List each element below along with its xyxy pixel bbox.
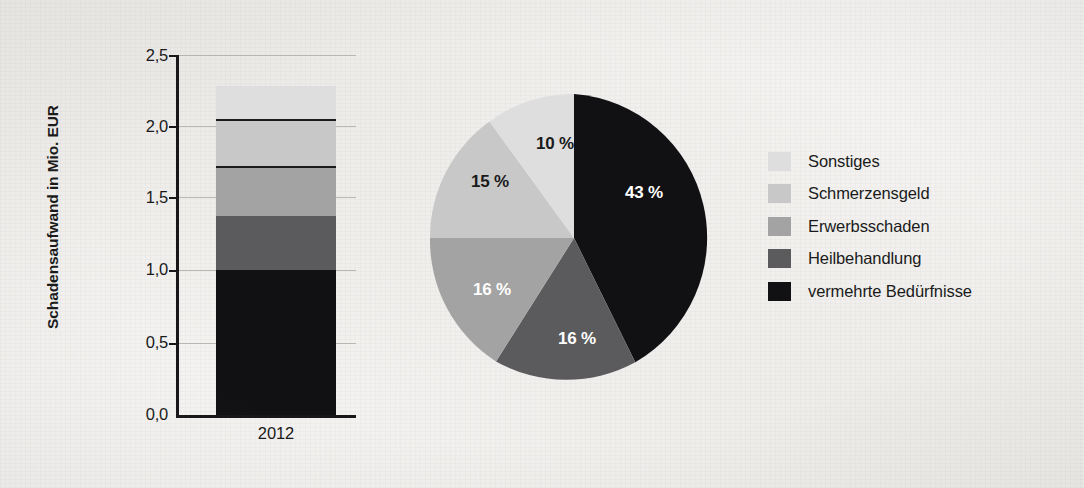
pie-label-heilbehandlung: 16 % xyxy=(558,329,596,349)
legend-swatch-sonstiges xyxy=(768,152,791,171)
bar-segment-sonstiges xyxy=(216,86,336,120)
y-axis-tick-labels: 2,5 2,0 1,5 1,0 0,5 0,0 xyxy=(122,0,168,488)
legend-item-erwerbsschaden: Erwerbsschaden xyxy=(768,210,1068,243)
y-tick-label-1-0: 1,0 xyxy=(122,260,168,279)
legend-item-sonstiges: Sonstiges xyxy=(768,145,1068,178)
y-axis-line xyxy=(176,55,179,417)
legend-swatch-erwerbsschaden xyxy=(768,217,791,236)
chart-legend: Sonstiges Schmerzensgeld Erwerbsschaden … xyxy=(768,145,1068,308)
y-tick-label-1-5: 1,5 xyxy=(122,188,168,207)
stacked-bar-chart: Schadensaufwand in Mio. EUR 2,5 2,0 1,5 … xyxy=(0,0,420,488)
legend-label-erwerbsschaden: Erwerbsschaden xyxy=(808,217,930,236)
bar-segment-heilbehandlung xyxy=(216,216,336,270)
legend-swatch-vermehrte-beduerfnisse xyxy=(768,282,791,301)
legend-item-schmerzensgeld: Schmerzensgeld xyxy=(768,178,1068,211)
y-tick-label-0-5: 0,5 xyxy=(122,333,168,352)
legend-item-heilbehandlung: Heilbehandlung xyxy=(768,243,1068,276)
pie-label-erwerbsschaden: 16 % xyxy=(473,280,511,300)
pie-chart: 43 % 16 % 16 % 15 % 10 % xyxy=(429,93,719,383)
pie-label-sonstiges: 10 % xyxy=(536,134,574,154)
x-axis-category-label: 2012 xyxy=(216,424,336,443)
y-tick-label-2-5: 2,5 xyxy=(122,46,168,65)
legend-label-vermehrte-beduerfnisse: vermehrte Bedürfnisse xyxy=(808,282,972,301)
bar-segment-erwerbsschaden xyxy=(216,167,336,216)
pie-label-schmerzensgeld: 15 % xyxy=(471,172,509,192)
legend-label-schmerzensgeld: Schmerzensgeld xyxy=(808,184,930,203)
y-tick-label-2-0: 2,0 xyxy=(122,117,168,136)
bar-divider-sonstiges-schmerzensgeld xyxy=(216,119,336,121)
legend-item-vermehrte-beduerfnisse: vermehrte Bedürfnisse xyxy=(768,275,1068,308)
bar-segment-vermehrte-beduerfnisse xyxy=(216,270,336,415)
y-tick-label-0-0: 0,0 xyxy=(122,405,168,424)
pie-label-vermehrte-beduerfnisse: 43 % xyxy=(625,183,663,203)
y-axis-title: Schadensaufwand in Mio. EUR xyxy=(44,102,62,332)
legend-swatch-schmerzensgeld xyxy=(768,184,791,203)
legend-label-heilbehandlung: Heilbehandlung xyxy=(808,249,921,268)
bar-segment-schmerzensgeld xyxy=(216,120,336,167)
x-axis-line xyxy=(176,415,356,418)
legend-swatch-heilbehandlung xyxy=(768,249,791,268)
bar-divider-schmerzensgeld-erwerbsschaden xyxy=(216,166,336,168)
gridline-2-5 xyxy=(176,55,356,56)
legend-label-sonstiges: Sonstiges xyxy=(808,152,880,171)
chart-page: Schadensaufwand in Mio. EUR 2,5 2,0 1,5 … xyxy=(0,0,1084,488)
